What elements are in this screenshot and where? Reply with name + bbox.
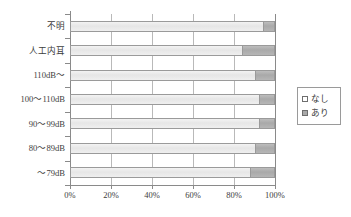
gridline [275, 14, 276, 185]
stacked-bar-chart: 0%20%40%60%80%100% 不明人工内耳110dB～100～110dB… [0, 0, 351, 217]
x-axis-tick [275, 185, 276, 189]
x-axis-tick [111, 185, 112, 189]
stacked-bar[interactable] [70, 21, 275, 32]
chart-legend: なし あり [297, 87, 341, 125]
x-axis-tick-label: 0% [64, 190, 75, 200]
legend-item-ari[interactable]: あり [302, 106, 340, 120]
y-axis-category-label: 90～99dB [2, 119, 65, 129]
bar-row: 80～89dB [70, 136, 275, 160]
bar-segment-ari[interactable] [259, 94, 275, 105]
bar-segment-nashi[interactable] [70, 21, 263, 32]
legend-label-nashi: なし [311, 92, 329, 106]
x-axis-tick [152, 185, 153, 189]
y-axis-category-label: 人工内耳 [2, 46, 65, 56]
bar-segment-ari[interactable] [242, 45, 275, 56]
bar-row: 人工内耳 [70, 38, 275, 62]
bar-segment-nashi[interactable] [70, 45, 242, 56]
bar-row: 110dB～ [70, 63, 275, 87]
x-axis-tick-label: 100% [265, 190, 285, 200]
bar-row: 100～110dB [70, 87, 275, 111]
x-axis-tick-label: 40% [144, 190, 160, 200]
bar-segment-nashi[interactable] [70, 143, 255, 154]
stacked-bar[interactable] [70, 167, 275, 178]
x-axis-tick [234, 185, 235, 189]
bar-row: 90～99dB [70, 112, 275, 136]
y-axis-category-label: 110dB～ [2, 70, 65, 80]
bar-row: ～79dB [70, 161, 275, 185]
legend-item-nashi[interactable]: なし [302, 92, 340, 106]
bar-segment-ari[interactable] [255, 143, 276, 154]
bar-segment-nashi[interactable] [70, 94, 259, 105]
bar-segment-ari[interactable] [255, 70, 276, 81]
bar-segment-nashi[interactable] [70, 118, 259, 129]
stacked-bar[interactable] [70, 94, 275, 105]
y-axis-category-label: 不明 [2, 21, 65, 31]
legend-label-ari: あり [311, 106, 329, 120]
bar-segment-nashi[interactable] [70, 167, 250, 178]
x-axis-line [70, 185, 276, 186]
stacked-bar[interactable] [70, 143, 275, 154]
y-axis-category-label: ～79dB [2, 168, 65, 178]
bar-segment-nashi[interactable] [70, 70, 255, 81]
x-axis-tick [193, 185, 194, 189]
bar-segment-ari[interactable] [250, 167, 275, 178]
x-axis-tick-label: 60% [185, 190, 201, 200]
bar-row: 不明 [70, 14, 275, 38]
y-axis-tick [65, 185, 70, 186]
y-axis-category-label: 100～110dB [2, 94, 65, 104]
stacked-bar[interactable] [70, 118, 275, 129]
x-axis-tick [70, 185, 71, 189]
x-axis-tick-label: 20% [103, 190, 119, 200]
bar-segment-ari[interactable] [263, 21, 275, 32]
stacked-bar[interactable] [70, 45, 275, 56]
x-axis-tick-label: 80% [226, 190, 242, 200]
filled-square-icon [302, 110, 308, 116]
y-axis-category-label: 80～89dB [2, 143, 65, 153]
empty-square-icon [302, 96, 308, 102]
stacked-bar[interactable] [70, 70, 275, 81]
bar-segment-ari[interactable] [259, 118, 275, 129]
